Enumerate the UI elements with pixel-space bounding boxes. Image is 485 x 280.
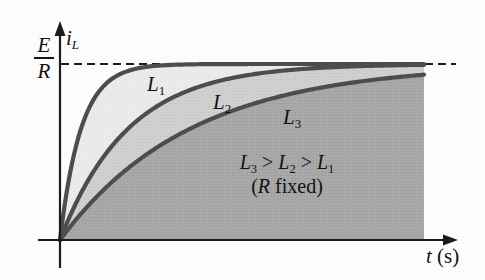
y-axis-label-sub: L	[72, 37, 79, 52]
y-axis-label-base: i	[66, 26, 72, 50]
y-axis-label: iL	[66, 28, 79, 49]
ann-l1-sub: 1	[328, 162, 334, 176]
curve-label-l3-sub: 3	[295, 116, 302, 131]
ann-l2-sub: 2	[289, 162, 295, 176]
x-axis-label-unit: (s)	[432, 244, 459, 268]
asymptote-denominator: R	[30, 60, 58, 82]
ann-l1-base: L	[317, 151, 328, 173]
x-axis-label: t (s)	[426, 246, 459, 267]
asymptote-numerator: E	[34, 34, 55, 59]
curve-label-l1-base: L	[147, 72, 159, 96]
annotation-line2: (R fixed)	[222, 176, 352, 197]
asymptote-value-label: E R	[30, 34, 58, 82]
ann-gt1: >	[257, 151, 278, 173]
ann-l3-base: L	[240, 151, 251, 173]
ann-l3-sub: 3	[251, 162, 257, 176]
curve-label-l3: L3	[283, 107, 301, 128]
annotation-line1: L3 > L2 > L1	[222, 152, 352, 176]
ann-r-var: R	[258, 175, 270, 197]
ann-paren-open: (	[251, 175, 258, 197]
curve-label-l2-base: L	[213, 90, 225, 114]
curve-label-l1: L1	[147, 74, 165, 95]
ann-gt2: >	[296, 151, 317, 173]
inductance-relation-annotation: L3 > L2 > L1 (R fixed)	[222, 152, 352, 197]
curve-label-l2: L2	[213, 92, 231, 113]
ann-l2-base: L	[278, 151, 289, 173]
rl-current-rise-figure: iL E R L1 L2 L3 L3 > L2 > L1 (R fixed) t…	[0, 0, 485, 280]
curve-label-l2-sub: 2	[225, 101, 232, 116]
curve-label-l1-sub: 1	[159, 83, 166, 98]
curve-label-l3-base: L	[283, 105, 295, 129]
ann-fixed-text: fixed)	[270, 175, 323, 197]
